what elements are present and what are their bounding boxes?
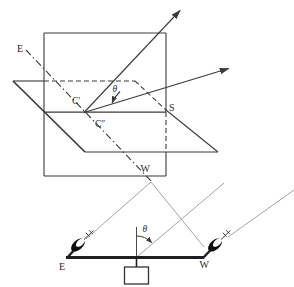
ray-to-west-dish [228,190,294,237]
top-figure-planes [13,11,229,183]
incoming-rays [86,182,294,256]
east-dish-feed [84,230,94,239]
receiver [125,258,149,284]
diagram-svg: E W S θ C′ C″ [0,0,294,287]
east-feed-strut [84,231,94,240]
label-theta-bottom: θ [143,224,148,234]
label-east-antenna: E [59,261,65,272]
baseline-assembly [66,248,212,258]
vertical-plane [44,33,166,176]
label-c-double-prime: C″ [95,119,105,129]
bottom-figure-interferometer [66,182,294,284]
west-dish-icon [206,230,231,254]
east-west-line [26,50,152,182]
west-feed-strut [221,231,231,240]
shallow-ray-arrow [84,69,229,113]
west-dish-feed [221,230,231,239]
wavefront-line [151,182,204,247]
east-dish-icon [69,230,94,254]
label-west-antenna: W [200,259,210,270]
theta-angle-arc-bottom [137,236,152,243]
label-east-top: E [17,43,23,54]
ray-to-east-dish [86,182,151,239]
horizontal-plane-right-edge-visible [166,110,218,152]
interferometer-geometry-figure: E W S θ C′ C″ [0,0,294,287]
horizontal-plane-left-edge [13,81,85,152]
label-south-point: S [169,102,175,113]
receiver-box [125,267,149,284]
label-c-prime: C′ [72,96,80,106]
label-west-top: W [141,163,151,174]
label-theta-top: θ [113,84,118,94]
